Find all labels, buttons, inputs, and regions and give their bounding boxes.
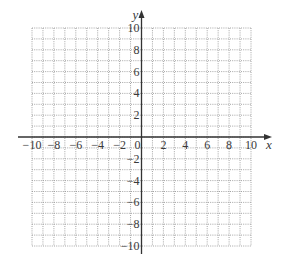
y-tick-label: 8 (134, 43, 140, 57)
y-axis-label: y (131, 7, 139, 22)
y-tick-label: 6 (134, 65, 140, 79)
y-tick-label: 2 (134, 108, 140, 122)
x-tick-label: −6 (69, 138, 82, 152)
y-axis-arrow-icon (139, 10, 145, 18)
x-tick-label: 8 (226, 138, 232, 152)
y-tick-label: −2 (127, 152, 140, 166)
x-tick-label: −10 (23, 138, 42, 152)
x-tick-label: −4 (91, 138, 104, 152)
y-tick-label: −6 (127, 195, 140, 209)
y-tick-label: 4 (134, 86, 140, 100)
coordinate-plane: −10−8−6−4−20246810 108642−2−4−6−8−10 x y (0, 0, 283, 268)
x-tick-label: 4 (182, 138, 188, 152)
x-tick-labels: −10−8−6−4−20246810 (23, 138, 257, 152)
y-tick-label: 10 (128, 21, 140, 35)
axes (18, 10, 272, 254)
y-tick-label: −10 (121, 239, 140, 253)
x-axis-label: x (265, 137, 272, 152)
x-tick-label: −2 (113, 138, 126, 152)
x-tick-label: 0 (135, 138, 141, 152)
x-tick-label: −8 (48, 138, 61, 152)
x-tick-label: 2 (160, 138, 166, 152)
y-tick-label: −8 (127, 217, 140, 231)
x-tick-label: 10 (245, 138, 257, 152)
x-tick-label: 6 (204, 138, 210, 152)
y-tick-label: −4 (127, 174, 140, 188)
